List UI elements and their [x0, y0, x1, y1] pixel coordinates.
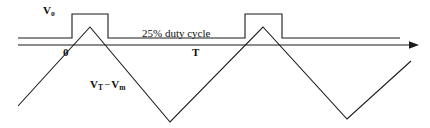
amplitude-subscript: o: [51, 9, 55, 18]
ramp-minus-sign: −: [103, 78, 111, 90]
waveform-figure: Vo 25% duty cycle 0 T VT−Vm: [0, 0, 430, 128]
ramp-m-symbol: V: [111, 78, 119, 90]
duty-cycle-label: 25% duty cycle: [142, 28, 210, 39]
period-label: T: [192, 47, 199, 58]
ramp-m-subscript: m: [119, 83, 125, 92]
ramp-v-subscript: T: [98, 83, 103, 92]
waveform-plot: [0, 0, 430, 128]
ramp-v-symbol: V: [90, 78, 98, 90]
time-axis-arrow-icon: [409, 41, 419, 49]
amplitude-symbol: V: [43, 4, 51, 16]
amplitude-label: Vo: [43, 5, 55, 16]
origin-label: 0: [63, 47, 69, 58]
triangular-ramp-trace: [18, 27, 411, 122]
ramp-voltage-label: VT−Vm: [90, 79, 125, 90]
